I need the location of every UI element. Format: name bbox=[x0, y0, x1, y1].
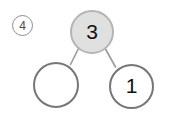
tree-node-root[interactable]: 3 bbox=[70, 10, 114, 54]
edge-root-to-left-child bbox=[71, 49, 79, 65]
edge-root-to-right-child bbox=[106, 49, 116, 67]
tree-node-left-child[interactable] bbox=[33, 62, 79, 108]
tree-node-right-child[interactable]: 1 bbox=[109, 64, 154, 109]
tree-node-right-child-label: 1 bbox=[126, 75, 138, 96]
tree-node-root-label: 3 bbox=[86, 21, 98, 42]
tree-diagram-panel: 4 3 1 bbox=[0, 0, 178, 122]
